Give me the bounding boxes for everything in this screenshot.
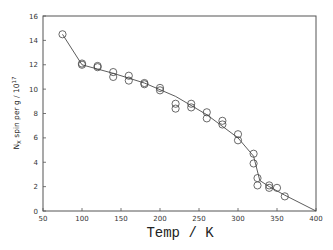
data-point-marker: [250, 160, 257, 167]
data-point-marker: [59, 31, 66, 38]
data-point-marker: [172, 105, 179, 112]
data-point-marker: [254, 182, 261, 189]
x-tick-label: 400: [309, 215, 322, 223]
y-axis-label: NX spin per g / 1017: [11, 76, 22, 150]
chart: 50100150200250300350400 0246810121416 Te…: [0, 0, 333, 250]
plot-axes: [43, 16, 316, 211]
y-tick-label: 10: [29, 86, 38, 94]
y-label-rest: spin per g / 10: [12, 83, 21, 140]
y-tick-label: 14: [29, 37, 38, 45]
y-tick-label: 16: [29, 13, 38, 21]
plot-frame: [43, 16, 316, 211]
x-tick-label: 350: [270, 215, 283, 223]
x-tick-label: 50: [39, 215, 48, 223]
y-label-sup: 17: [11, 76, 17, 83]
x-tick-label: 200: [153, 215, 166, 223]
data-point-marker: [273, 184, 280, 191]
data-points: [59, 31, 289, 200]
x-tick-label: 300: [231, 215, 244, 223]
y-tick-label: 8: [34, 110, 38, 118]
data-point-marker: [110, 73, 117, 80]
x-tick-label: 100: [75, 215, 88, 223]
y-tick-label: 6: [34, 134, 39, 142]
data-point-marker: [254, 174, 261, 181]
x-axis-ticks: 50100150200250300350400: [39, 208, 323, 223]
y-tick-label: 2: [34, 183, 38, 191]
y-tick-label: 12: [29, 61, 38, 69]
x-axis-label: Temp / K: [146, 225, 214, 241]
x-tick-label: 150: [114, 215, 127, 223]
x-tick-label: 250: [192, 215, 205, 223]
y-tick-label: 0: [34, 208, 38, 216]
y-tick-label: 4: [34, 159, 39, 167]
